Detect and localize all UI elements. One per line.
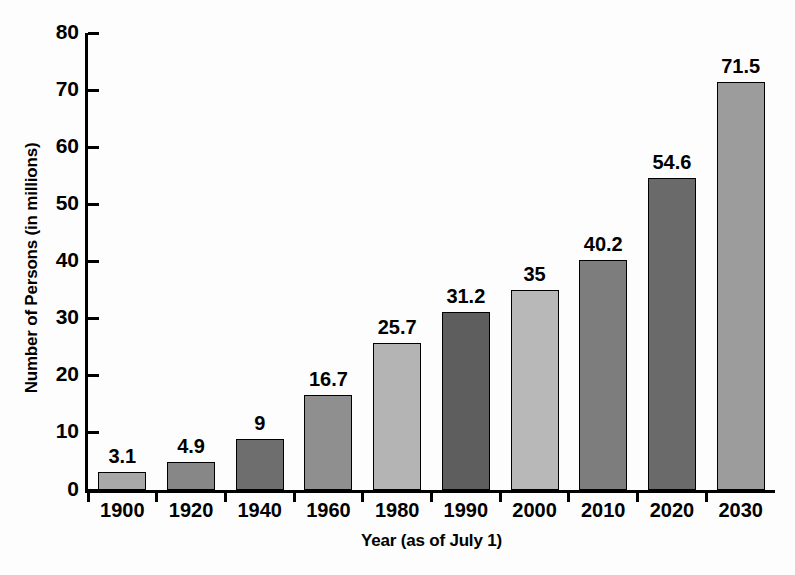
bar-1940: 9 [236, 439, 284, 490]
y-tick-label: 20 [33, 362, 79, 386]
x-label-2000: 2000 [500, 499, 569, 522]
bar-1960: 16.7 [304, 395, 352, 490]
y-tick-20: 20 [88, 374, 99, 377]
y-tick-0: 0 [88, 489, 99, 492]
bar-1980: 25.7 [373, 343, 421, 490]
x-label-1990: 1990 [432, 499, 501, 522]
y-tick-10: 10 [88, 431, 99, 434]
y-tick-label: 80 [33, 20, 79, 44]
bar-value-label: 9 [254, 412, 265, 435]
y-tick-label: 40 [33, 248, 79, 272]
bar-2000: 35 [511, 290, 559, 490]
bar-1920: 4.9 [167, 462, 215, 490]
bar-2020: 54.6 [648, 178, 696, 490]
x-label-1900: 1900 [88, 499, 157, 522]
plot-area: 01020304050607080 3.14.9916.725.731.2354… [88, 33, 775, 490]
bar-value-label: 3.1 [108, 445, 136, 468]
bar-value-label: 71.5 [721, 55, 760, 78]
bar-2010: 40.2 [579, 260, 627, 490]
bar-1990: 31.2 [442, 312, 490, 490]
bar-value-label: 35 [523, 263, 545, 286]
y-tick-50: 50 [88, 203, 99, 206]
y-tick-70: 70 [88, 89, 99, 92]
y-tick-label: 70 [33, 77, 79, 101]
x-label-1980: 1980 [363, 499, 432, 522]
bar-value-label: 54.6 [652, 151, 691, 174]
bar-1900: 3.1 [98, 472, 146, 490]
x-axis-title: Year (as of July 1) [88, 531, 775, 551]
y-tick-60: 60 [88, 146, 99, 149]
bar-value-label: 16.7 [309, 368, 348, 391]
y-tick-label: 50 [33, 191, 79, 215]
x-label-1920: 1920 [157, 499, 226, 522]
y-tick-label: 0 [33, 477, 79, 501]
x-label-2020: 2020 [638, 499, 707, 522]
y-tick-label: 30 [33, 305, 79, 329]
bar-value-label: 25.7 [378, 316, 417, 339]
bar-value-label: 40.2 [584, 233, 623, 256]
bar-chart: Number of Persons (in millions) 01020304… [0, 0, 795, 575]
y-tick-80: 80 [88, 32, 99, 35]
bar-value-label: 4.9 [177, 435, 205, 458]
x-label-1940: 1940 [225, 499, 294, 522]
x-label-1960: 1960 [294, 499, 363, 522]
bar-value-label: 31.2 [446, 285, 485, 308]
bar-2030: 71.5 [717, 82, 765, 490]
x-label-2030: 2030 [706, 499, 775, 522]
y-tick-30: 30 [88, 317, 99, 320]
x-label-2010: 2010 [569, 499, 638, 522]
y-tick-label: 60 [33, 134, 79, 158]
y-tick-40: 40 [88, 260, 99, 263]
y-tick-label: 10 [33, 419, 79, 443]
